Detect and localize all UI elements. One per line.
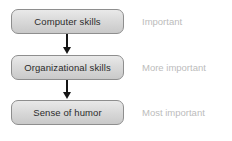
importance-caption-important: Important: [142, 17, 182, 27]
importance-caption-more-important: More important: [142, 63, 206, 73]
importance-caption-most-important: Most important: [142, 108, 205, 118]
flow-node-organizational-skills: Organizational skills: [11, 55, 124, 80]
arrow-head: [63, 47, 71, 54]
diagram-canvas: Computer skills Organizational skills Se…: [0, 0, 232, 141]
arrow-down-icon: [63, 80, 72, 100]
flow-node-label: Organizational skills: [24, 63, 111, 73]
flow-node-sense-of-humor: Sense of humor: [11, 100, 124, 125]
flow-node-label: Sense of humor: [33, 108, 101, 118]
arrow-down-icon: [63, 34, 72, 55]
flow-node-computer-skills: Computer skills: [11, 9, 124, 34]
flow-node-label: Computer skills: [34, 17, 100, 27]
arrow-head: [63, 92, 71, 99]
